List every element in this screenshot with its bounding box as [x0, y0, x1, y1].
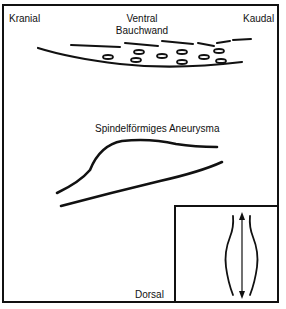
- label-dorsal: Dorsal: [135, 289, 164, 300]
- inset-cross-section: [174, 205, 279, 303]
- abdominal-wall-icon: [38, 39, 251, 67]
- aneurysm-vessel-icon: [57, 140, 222, 206]
- label-kaudal: Kaudal: [243, 13, 274, 24]
- inset-arrow-icon: [176, 207, 277, 301]
- label-spindelfoermiges-aneurysma: Spindelförmiges Aneurysma: [95, 123, 220, 134]
- label-ventral: Ventral: [102, 13, 182, 24]
- label-kranial: Kranial: [9, 13, 40, 24]
- label-bauchwand: Bauchwand: [102, 25, 182, 36]
